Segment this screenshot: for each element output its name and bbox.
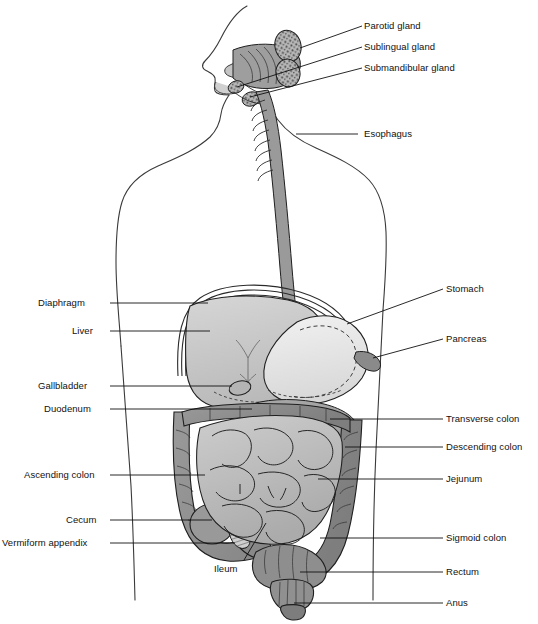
label-pancreas: Pancreas xyxy=(446,333,487,344)
anatomy-illustration xyxy=(0,0,538,624)
leader-line-pancreas xyxy=(373,339,443,358)
label-transverse-colon: Transverse colon xyxy=(446,413,519,424)
label-duodenum: Duodenum xyxy=(44,403,91,414)
label-ascending-colon: Ascending colon xyxy=(24,469,94,480)
label-vermiform-appendix: Vermiform appendix xyxy=(2,537,87,548)
leader-line-parotid-gland xyxy=(300,26,362,48)
label-cecum: Cecum xyxy=(66,514,96,525)
label-liver: Liver xyxy=(72,325,93,336)
label-parotid-gland: Parotid gland xyxy=(364,20,421,31)
label-esophagus: Esophagus xyxy=(364,128,412,139)
label-jejunum: Jejunum xyxy=(446,473,482,484)
anus-shape xyxy=(281,605,306,620)
label-rectum: Rectum xyxy=(446,566,479,577)
label-submandibular-gland: Submandibular gland xyxy=(364,62,455,73)
label-anus: Anus xyxy=(446,597,468,608)
label-diaphragm: Diaphragm xyxy=(38,297,85,308)
label-sublingual-gland: Sublingual gland xyxy=(364,41,435,52)
label-ileum: Ileum xyxy=(214,563,237,574)
label-descending-colon: Descending colon xyxy=(446,441,522,452)
digestive-system-diagram: Parotid glandSublingual glandSubmandibul… xyxy=(0,0,538,624)
leader-line-stomach xyxy=(347,289,443,324)
label-stomach: Stomach xyxy=(446,283,484,294)
label-gallbladder: Gallbladder xyxy=(38,380,87,391)
small-intestine-shape xyxy=(197,416,343,545)
label-sigmoid-colon: Sigmoid colon xyxy=(446,532,506,543)
